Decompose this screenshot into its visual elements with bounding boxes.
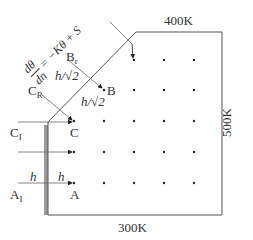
label-B-reflect: Br [66, 50, 78, 66]
label-A-image: AI [10, 188, 22, 204]
label-C-reflect: CR [28, 84, 43, 100]
diagram-graphics [0, 0, 253, 240]
label-spacing-h-root2-upper: h/√2 [55, 69, 79, 82]
label-spacing-h-right: h [58, 170, 65, 183]
label-C: C [70, 126, 79, 139]
diagram-canvas: 400K 500K 300K dθ dn = −Kθ + S Br B CR C… [0, 0, 253, 240]
label-spacing-h-left: h [30, 170, 37, 183]
label-B: B [107, 84, 116, 97]
wall-shadow [44, 125, 48, 215]
label-bottom-boundary: 300K [118, 221, 147, 234]
label-right-boundary: 500K [220, 108, 233, 137]
label-spacing-h-root2-lower: h/√2 [81, 95, 105, 108]
reflect-line-top [110, 22, 132, 44]
reflect-line-C [42, 95, 72, 120]
label-A: A [70, 188, 79, 201]
label-C-image: CI [10, 126, 22, 142]
label-top-boundary: 400K [164, 14, 193, 27]
